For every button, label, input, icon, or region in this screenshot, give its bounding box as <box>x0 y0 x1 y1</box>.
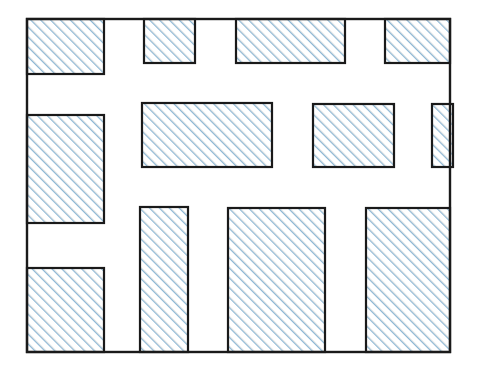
rect-top-3 <box>236 19 345 63</box>
rect-middle-right <box>313 104 394 167</box>
rect-middle-left <box>27 115 104 223</box>
rect-bottom-4 <box>366 208 450 352</box>
rect-top-1 <box>27 19 104 74</box>
rect-bottom-2 <box>140 207 188 352</box>
rectangle-layer <box>27 19 453 352</box>
figure-svg <box>0 0 478 378</box>
rect-top-4 <box>385 19 450 63</box>
rect-bottom-3 <box>228 208 325 352</box>
rect-middle-center <box>142 103 272 167</box>
figure-canvas <box>0 0 478 378</box>
rect-bottom-1 <box>27 268 104 352</box>
rect-top-2 <box>144 19 195 63</box>
